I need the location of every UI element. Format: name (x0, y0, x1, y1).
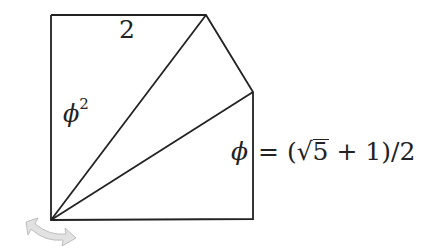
phi-symbol: ϕ (63, 100, 79, 128)
right-edge-phi-label: ϕ (231, 139, 248, 164)
rotate-handle[interactable] (26, 218, 76, 246)
open-paren: ( (287, 137, 297, 166)
formula-tail: + 1)/2 (329, 137, 416, 166)
exponent: 2 (79, 95, 89, 113)
rotate-double-arrow-icon[interactable] (26, 218, 76, 246)
radicand: 5 (313, 139, 329, 164)
top-edge-label: 2 (119, 17, 135, 42)
sqrt-sign: √ (297, 137, 313, 166)
left-edge-label: ϕ2 (63, 101, 89, 126)
golden-ratio-formula: = (√5 + 1)/2 (258, 139, 415, 164)
equals-sign: = (258, 137, 279, 166)
